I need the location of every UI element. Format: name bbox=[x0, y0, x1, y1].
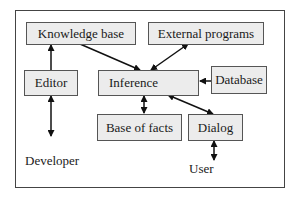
node-label: Database bbox=[215, 72, 263, 88]
node-label: Inference bbox=[109, 75, 158, 91]
edge-external-programs-inference bbox=[151, 44, 188, 70]
node-label: Editor bbox=[35, 75, 68, 91]
node-base-of-facts: Base of facts bbox=[97, 114, 182, 141]
node-inference: Inference bbox=[98, 70, 199, 96]
edge-inference-dialog bbox=[168, 95, 213, 114]
node-database: Database bbox=[211, 66, 267, 94]
node-knowledge-base: Knowledge base bbox=[26, 22, 136, 45]
edge-knowledge-base-inference bbox=[80, 44, 140, 70]
node-label: Base of facts bbox=[106, 120, 173, 136]
node-label: External programs bbox=[158, 26, 254, 42]
actor-developer: Developer bbox=[25, 153, 79, 169]
actor-user: User bbox=[189, 161, 214, 177]
node-label: Knowledge base bbox=[38, 26, 124, 42]
node-editor: Editor bbox=[24, 70, 78, 96]
node-external-programs: External programs bbox=[148, 22, 264, 45]
node-label: Dialog bbox=[198, 120, 233, 136]
node-dialog: Dialog bbox=[188, 114, 243, 141]
